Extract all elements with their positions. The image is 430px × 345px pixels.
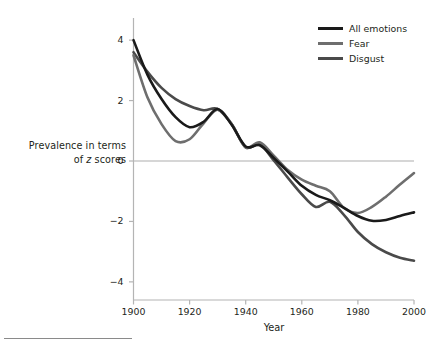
y-axis-title-line2-prefix: of [74,154,87,165]
legend-item: Fear [318,33,418,48]
y-axis-tick-label: 0 [98,156,124,166]
x-axis-title: Year [133,322,415,333]
legend-item: All emotions [318,18,418,33]
legend-item: Disgust [318,48,418,63]
legend-item-label: Disgust [349,53,384,64]
legend-swatch-line-icon [318,27,343,30]
y-axis-tick-label: −2 [98,216,124,226]
legend-swatch-line-icon [318,57,343,60]
series-line-fear [134,55,415,213]
x-axis-tick-label: 1980 [335,307,381,317]
chart-legend: All emotionsFearDisgust [318,18,418,63]
series-line-all-emotions [134,40,415,221]
x-axis-tick-label: 1940 [223,307,269,317]
y-axis-tick-label: −4 [98,277,124,287]
x-axis-tick-label: 1960 [279,307,325,317]
y-axis-tick-label: 2 [98,96,124,106]
y-axis-tick-label: 4 [98,35,124,45]
x-axis-tick-label: 2000 [391,307,430,317]
page-footer-rule [4,338,132,339]
legend-swatch-line-icon [318,42,343,45]
y-axis-title-line1: Prevalence in terms [29,140,126,151]
x-axis-tick-label: 1920 [167,307,213,317]
x-axis-tick-label: 1900 [111,307,157,317]
